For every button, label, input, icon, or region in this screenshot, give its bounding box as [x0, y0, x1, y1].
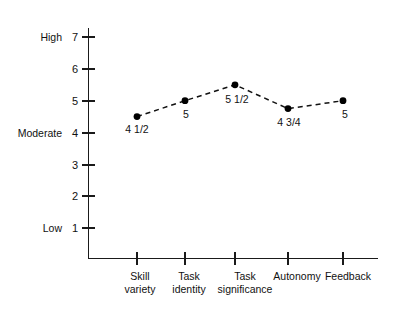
- y-tick-label: 1: [72, 222, 78, 234]
- x-label-autonomy: Autonomy: [273, 270, 321, 282]
- chart-background: [0, 0, 393, 309]
- data-point-skill-variety[interactable]: [134, 113, 141, 120]
- job-characteristics-line-chart: 7 6 5 4 3 2 1: [0, 0, 393, 309]
- data-label-autonomy: 4 3/4: [277, 116, 301, 128]
- y-band-label-high: High: [40, 31, 62, 43]
- y-tick-label: 4: [72, 127, 78, 139]
- x-label-line-1: Task: [178, 270, 200, 282]
- y-tick-label: 6: [72, 63, 78, 75]
- x-label-line-1: Task: [234, 270, 256, 282]
- y-tick-label: 5: [72, 95, 78, 107]
- x-label-line-1: Feedback: [325, 270, 372, 282]
- y-tick-label: 2: [72, 190, 78, 202]
- chart-container: 7 6 5 4 3 2 1: [0, 0, 393, 309]
- y-band-label-low: Low: [43, 222, 63, 234]
- x-label-line-1: Skill: [130, 270, 149, 282]
- x-label-line-2: significance: [218, 283, 273, 295]
- data-label-skill-variety: 4 1/2: [125, 123, 149, 135]
- y-band-label-moderate: Moderate: [18, 127, 63, 139]
- y-tick-label: 7: [72, 31, 78, 43]
- x-label-feedback: Feedback: [325, 270, 372, 282]
- data-point-autonomy[interactable]: [285, 105, 292, 112]
- data-point-feedback[interactable]: [340, 97, 347, 104]
- data-label-task-significance: 5 1/2: [225, 93, 249, 105]
- data-point-task-significance[interactable]: [232, 81, 239, 88]
- x-label-line-2: identity: [172, 283, 206, 295]
- y-tick-label: 3: [72, 159, 78, 171]
- data-point-task-identity[interactable]: [182, 97, 189, 104]
- x-label-line-2: variety: [125, 283, 157, 295]
- data-label-task-identity: 5: [183, 108, 189, 120]
- x-label-line-1: Autonomy: [273, 270, 321, 282]
- data-label-feedback: 5: [342, 108, 348, 120]
